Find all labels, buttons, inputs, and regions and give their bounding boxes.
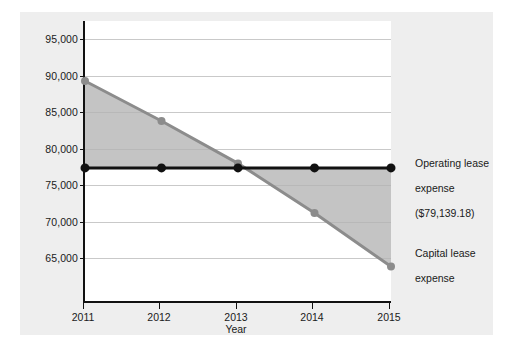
x-tick-mark xyxy=(83,303,84,309)
data-point-marker xyxy=(158,117,166,125)
chart-figure-inner: 95,000 90,000 85,000 80,000 75,000 70,00… xyxy=(20,12,493,335)
y-tick-label: 95,000 xyxy=(45,33,78,45)
x-tick-mark xyxy=(389,303,390,309)
y-tick-label: 70,000 xyxy=(45,216,78,228)
data-point-marker xyxy=(387,163,396,172)
y-tick-label: 65,000 xyxy=(45,252,78,264)
data-point-marker xyxy=(81,163,90,172)
x-tick-mark xyxy=(236,303,237,309)
x-axis-title: Year xyxy=(83,323,389,335)
x-tick-mark xyxy=(159,303,160,309)
shaded-area-between-series xyxy=(85,81,391,267)
chart-series-svg xyxy=(85,21,391,301)
y-tick-label: 85,000 xyxy=(45,106,78,118)
capital-annotation-line2: expense xyxy=(415,272,510,285)
x-tick-label: 2014 xyxy=(300,311,323,323)
operating-lease-annotation: Operating lease expense ($79,139.18) xyxy=(415,144,510,232)
data-point-marker xyxy=(81,77,89,85)
data-point-marker xyxy=(310,163,319,172)
x-tick-label: 2012 xyxy=(147,311,170,323)
capital-lease-annotation: Capital lease expense xyxy=(415,234,510,297)
plot-area xyxy=(83,21,391,303)
y-axis-tick-labels: 95,000 90,000 85,000 80,000 75,000 70,00… xyxy=(20,21,78,301)
data-point-marker xyxy=(311,209,319,217)
y-tick-label: 75,000 xyxy=(45,179,78,191)
operating-annotation-line2: expense xyxy=(415,182,510,195)
data-point-marker xyxy=(157,163,166,172)
x-tick-mark xyxy=(312,303,313,309)
x-tick-label: 2015 xyxy=(377,311,400,323)
x-tick-label: 2011 xyxy=(72,311,95,323)
x-tick-label: 2013 xyxy=(224,311,247,323)
chart-figure: 95,000 90,000 85,000 80,000 75,000 70,00… xyxy=(20,12,493,335)
capital-annotation-line1: Capital lease xyxy=(415,247,510,260)
y-tick-label: 80,000 xyxy=(45,143,78,155)
operating-annotation-line1: Operating lease xyxy=(415,157,510,170)
operating-annotation-line3: ($79,139.18) xyxy=(415,207,510,220)
data-point-marker xyxy=(387,263,395,271)
data-point-marker xyxy=(234,163,243,172)
y-tick-label: 90,000 xyxy=(45,70,78,82)
